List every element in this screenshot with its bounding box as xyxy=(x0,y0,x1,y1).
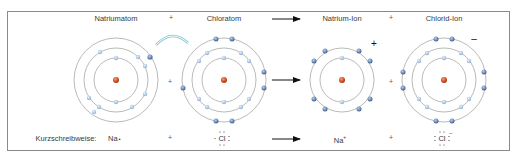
chloride-ion xyxy=(401,37,487,124)
nucleus-icon xyxy=(339,77,345,83)
chlorine-atom xyxy=(181,37,267,124)
nucleus-icon xyxy=(441,77,447,83)
cl-atom-lewis-dots xyxy=(214,131,229,145)
nucleus-icon xyxy=(113,77,119,83)
sodium-ion xyxy=(310,48,374,112)
atom-diagram xyxy=(0,0,518,160)
cl-ion-lewis-dots xyxy=(434,131,449,145)
valence-electron-icon xyxy=(147,54,152,59)
nucleus-icon xyxy=(221,77,227,83)
sodium-atom xyxy=(74,38,158,122)
